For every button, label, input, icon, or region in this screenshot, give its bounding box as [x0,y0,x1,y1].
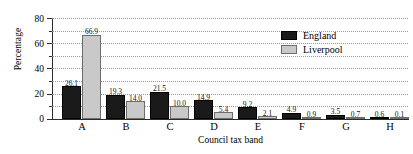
gridline-40 [52,68,408,69]
gridline-30 [52,81,408,82]
bar-value-liverpool-B: 14.0 [129,95,142,103]
legend-label-liverpool: Liverpool [303,45,342,55]
bar-value-liverpool-F: 0.9 [307,111,316,119]
plot-area: 26.1 66.9 19.3 14.0 21.5 10.0 [52,18,408,119]
bar-value-liverpool-A: 66.9 [85,28,98,36]
bar-value-liverpool-H: 0.1 [395,111,404,119]
y-tick-label-20: 20 [0,90,44,100]
bar-england-D: 14.9 [194,100,213,119]
bar-value-england-F: 4.9 [287,106,296,114]
bar-liverpool-F: 0.9 [302,117,321,119]
y-tick-label-40: 40 [0,65,44,75]
x-axis-title: Council tax band [52,136,409,146]
gridline-80 [52,18,408,19]
bar-england-H: 0.6 [370,117,389,119]
bar-value-liverpool-E: 2.1 [263,110,272,118]
bar-liverpool-D: 5.4 [214,112,233,119]
bar-england-F: 4.9 [282,113,301,119]
bar-value-england-G: 3.5 [331,108,340,116]
legend-label-england: England [303,31,336,41]
gridline-50 [52,56,408,57]
x-tick-label-F: F [282,122,322,133]
bar-england-C: 21.5 [150,92,169,119]
chart-legend: England Liverpool [281,29,342,57]
y-tick-label-60: 60 [0,40,44,50]
x-axis-line [52,119,409,120]
bar-liverpool-E: 2.1 [258,116,277,119]
legend-swatch-liverpool-icon [281,45,297,54]
legend-item-england: England [281,29,342,42]
bar-liverpool-G: 0.7 [346,117,365,119]
bar-liverpool-H: 0.1 [390,117,409,119]
bar-england-G: 3.5 [326,115,345,119]
x-tick-label-E: E [238,122,278,133]
bar-value-england-B: 19.3 [109,88,122,96]
bar-chart: Percentage 80 60 40 20 0 26.1 66.9 [0,0,413,154]
bar-england-E: 9.2 [238,107,257,119]
bar-value-england-H: 0.6 [375,111,384,119]
bar-liverpool-A: 66.9 [82,35,101,119]
legend-item-liverpool: Liverpool [281,43,342,56]
x-tick-label-H: H [370,122,410,133]
x-tick-label-A: A [62,122,102,133]
legend-swatch-england-icon [281,31,297,40]
y-tick-label-80: 80 [0,15,44,25]
bar-england-B: 19.3 [106,95,125,119]
gridline-60 [52,43,408,44]
bar-england-A: 26.1 [62,86,81,119]
y-tick-label-0: 0 [0,115,44,125]
bar-value-england-C: 21.5 [153,85,166,93]
gridline-70 [52,31,408,32]
bar-value-liverpool-G: 0.7 [351,111,360,119]
bar-value-england-D: 14.9 [197,94,210,102]
bar-value-liverpool-C: 10.0 [173,100,186,108]
x-tick-label-C: C [150,122,190,133]
x-tick-label-B: B [106,122,146,133]
x-tick-label-D: D [194,122,234,133]
bar-value-england-E: 9.2 [243,101,252,109]
bar-value-liverpool-D: 5.4 [219,106,228,114]
bar-liverpool-C: 10.0 [170,106,189,119]
bar-value-england-A: 26.1 [65,80,78,88]
x-tick-label-G: G [326,122,366,133]
bar-liverpool-B: 14.0 [126,101,145,119]
